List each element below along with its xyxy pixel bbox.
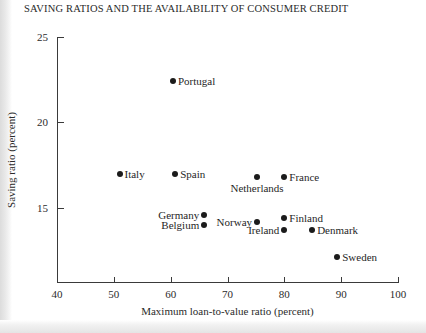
x-tick-label: 80 bbox=[279, 288, 290, 300]
y-tick-mark bbox=[58, 208, 64, 209]
plot-area: 152025 405060708090100 PortugalItalySpai… bbox=[57, 37, 398, 283]
x-axis-title: Maximum loan-to-value ratio (percent) bbox=[141, 305, 314, 317]
data-point-label-portugal: Portugal bbox=[178, 75, 215, 87]
y-axis-title: Saving ratio (percent) bbox=[5, 112, 17, 208]
y-axis-line bbox=[57, 37, 58, 283]
data-point-sweden[interactable] bbox=[334, 254, 340, 260]
data-point-france[interactable] bbox=[281, 174, 287, 180]
data-point-belgium[interactable] bbox=[201, 222, 207, 228]
data-point-label-ireland: Ireland bbox=[248, 224, 279, 236]
data-point-label-finland: Finland bbox=[289, 212, 323, 224]
x-tick-mark bbox=[341, 277, 342, 283]
y-tick-label: 25 bbox=[37, 31, 48, 43]
x-tick-mark bbox=[284, 277, 285, 283]
data-point-spain[interactable] bbox=[172, 171, 178, 177]
page-edge-shadow-bottom bbox=[0, 320, 426, 333]
data-point-label-italy: Italy bbox=[125, 168, 145, 180]
x-tick-label: 100 bbox=[390, 288, 407, 300]
data-point-ireland[interactable] bbox=[281, 227, 287, 233]
data-point-finland[interactable] bbox=[281, 215, 287, 221]
data-point-germany[interactable] bbox=[201, 212, 207, 218]
chart-title: SAVING RATIOS AND THE AVAILABILITY OF CO… bbox=[24, 3, 348, 14]
y-tick-mark bbox=[58, 122, 64, 123]
x-tick-mark bbox=[228, 277, 229, 283]
x-tick-mark bbox=[114, 277, 115, 283]
x-tick-label: 60 bbox=[165, 288, 176, 300]
data-point-italy[interactable] bbox=[117, 171, 123, 177]
figure-canvas: SAVING RATIOS AND THE AVAILABILITY OF CO… bbox=[0, 0, 426, 333]
x-tick-mark bbox=[57, 277, 58, 283]
data-point-label-belgium: Belgium bbox=[161, 219, 199, 231]
x-tick-label: 40 bbox=[52, 288, 63, 300]
x-tick-label: 70 bbox=[222, 288, 233, 300]
data-point-label-netherlands: Netherlands bbox=[230, 182, 283, 194]
data-point-label-sweden: Sweden bbox=[342, 251, 377, 263]
data-point-label-norway: Norway bbox=[217, 216, 252, 228]
data-point-label-denmark: Denmark bbox=[317, 224, 358, 236]
data-point-denmark[interactable] bbox=[309, 227, 315, 233]
x-tick-mark bbox=[398, 277, 399, 283]
x-tick-label: 50 bbox=[108, 288, 119, 300]
data-point-portugal[interactable] bbox=[170, 78, 176, 84]
data-point-label-spain: Spain bbox=[180, 168, 205, 180]
data-point-label-france: France bbox=[289, 171, 319, 183]
x-tick-mark bbox=[171, 277, 172, 283]
x-tick-label: 90 bbox=[336, 288, 347, 300]
y-tick-mark bbox=[58, 37, 64, 38]
data-point-netherlands[interactable] bbox=[254, 174, 260, 180]
y-tick-label: 15 bbox=[37, 202, 48, 214]
y-tick-label: 20 bbox=[37, 116, 48, 128]
